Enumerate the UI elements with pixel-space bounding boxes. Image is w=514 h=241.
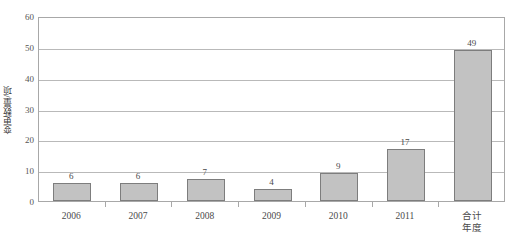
y-axis-tick-label: 10 bbox=[14, 167, 38, 176]
y-axis-tick-label: 40 bbox=[14, 74, 38, 83]
x-axis-tick bbox=[438, 202, 439, 207]
y-axis-tick-labels: 0102030405060 bbox=[14, 0, 38, 241]
y-axis-title: 变更数量/项 bbox=[0, 17, 14, 202]
x-axis-tick bbox=[372, 202, 373, 207]
plot-area bbox=[38, 17, 505, 202]
bar bbox=[320, 173, 358, 201]
x-axis-tick bbox=[238, 202, 239, 207]
x-axis-tick bbox=[171, 202, 172, 207]
x-axis-category-label: 2009 bbox=[238, 210, 305, 223]
bar bbox=[254, 189, 292, 201]
bar-value-label: 4 bbox=[252, 178, 292, 187]
bar-value-label: 6 bbox=[118, 172, 158, 181]
x-axis-tick bbox=[105, 202, 106, 207]
gridline bbox=[39, 80, 504, 81]
y-axis-tick-label: 50 bbox=[14, 43, 38, 52]
y-axis-tick-label: 30 bbox=[14, 105, 38, 114]
x-axis-category-label: 2006 bbox=[38, 210, 105, 223]
gridline bbox=[39, 49, 504, 50]
bar-value-label: 9 bbox=[318, 162, 358, 171]
bar bbox=[387, 149, 425, 201]
y-axis-tick-label: 20 bbox=[14, 136, 38, 145]
x-axis-category-label: 合计 bbox=[438, 210, 505, 223]
x-axis-category-label: 2007 bbox=[105, 210, 172, 223]
x-axis-category-label: 2010 bbox=[305, 210, 372, 223]
x-axis-category-label: 2008 bbox=[171, 210, 238, 223]
bar-value-label: 6 bbox=[51, 172, 91, 181]
gridline bbox=[39, 141, 504, 142]
bar-value-label: 17 bbox=[385, 138, 425, 147]
bar bbox=[454, 50, 492, 201]
y-axis-tick-label: 0 bbox=[14, 198, 38, 207]
bar bbox=[120, 183, 158, 202]
y-axis-title-text: 变更数量/项 bbox=[3, 86, 12, 134]
bar-value-label: 7 bbox=[185, 168, 225, 177]
bar-chart: 变更数量/项 0102030405060 年度 6674917492006200… bbox=[0, 0, 514, 241]
gridline bbox=[39, 111, 504, 112]
x-axis-category-label: 2011 bbox=[372, 210, 439, 223]
y-axis-tick-label: 60 bbox=[14, 13, 38, 22]
x-axis-title-text: 年度 bbox=[462, 223, 482, 233]
x-axis-tick bbox=[305, 202, 306, 207]
x-axis-title: 年度 bbox=[438, 223, 505, 234]
bar-value-label: 49 bbox=[452, 39, 492, 48]
bar bbox=[187, 179, 225, 201]
gridline bbox=[39, 172, 504, 173]
bar bbox=[53, 183, 91, 202]
